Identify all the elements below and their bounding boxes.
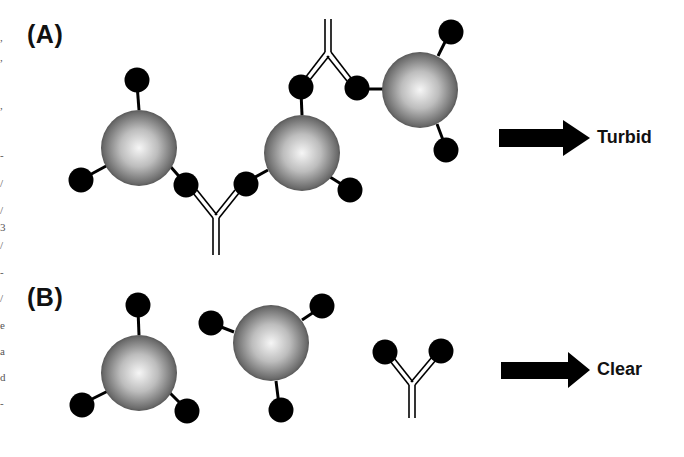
margin-fragment: / — [0, 240, 3, 251]
panel-b-graphic — [70, 293, 591, 424]
margin-fragment: a — [0, 346, 5, 357]
antigen-dot — [175, 399, 200, 424]
particle-a3 — [345, 20, 464, 163]
antibody-a2 — [305, 19, 351, 81]
antigen-dot — [269, 398, 294, 423]
arrow-right-icon — [499, 120, 590, 156]
panel-a-graphic — [69, 19, 591, 255]
particle-b1 — [70, 293, 200, 424]
latex-bead — [101, 110, 177, 186]
antigen-dot — [338, 178, 363, 203]
margin-fragment: 3 — [0, 222, 6, 233]
margin-fragment: - — [0, 150, 4, 161]
panel-b-label: (B) — [27, 283, 63, 312]
margin-fragment: - — [0, 398, 4, 409]
margin-fragment: / — [0, 205, 3, 216]
particle-a2 — [234, 75, 363, 203]
antigen-dot — [289, 75, 314, 100]
antigen-dot — [174, 173, 199, 198]
latex-bead — [382, 52, 458, 128]
antigen-dot — [439, 20, 464, 45]
margin-fragment: / — [0, 293, 3, 304]
margin-fragment: d — [0, 372, 6, 383]
antigen-dot — [234, 172, 259, 197]
antigen-dot — [125, 68, 150, 93]
antigen-dot — [429, 339, 454, 364]
antibody-a1 — [193, 190, 239, 255]
antigen-dot — [69, 168, 94, 193]
latex-bead — [233, 305, 309, 381]
panel-a-label: (A) — [27, 20, 63, 49]
agglutination-diagram — [0, 0, 684, 457]
outcome-clear: Clear — [597, 359, 642, 380]
antigen-dot — [345, 76, 370, 101]
margin-fragment: e — [0, 320, 5, 331]
antigen-dot — [126, 293, 151, 318]
outcome-turbid: Turbid — [597, 127, 652, 148]
margin-fragment: / — [0, 178, 3, 189]
antigen-dot — [373, 340, 398, 365]
free-antibody-b — [373, 339, 454, 419]
latex-bead — [264, 115, 340, 191]
margin-fragment: , — [0, 32, 3, 43]
margin-fragment: - — [0, 267, 4, 278]
latex-bead — [101, 335, 177, 411]
particle-a1 — [69, 68, 199, 198]
antigen-dot — [70, 393, 95, 418]
margin-fragment: , — [0, 100, 3, 111]
antigen-dot — [199, 311, 224, 336]
particle-b2 — [199, 294, 335, 423]
margin-fragment: , — [0, 52, 3, 63]
antigen-dot — [310, 294, 335, 319]
arrow-right-icon — [501, 352, 590, 388]
antigen-dot — [434, 138, 459, 163]
